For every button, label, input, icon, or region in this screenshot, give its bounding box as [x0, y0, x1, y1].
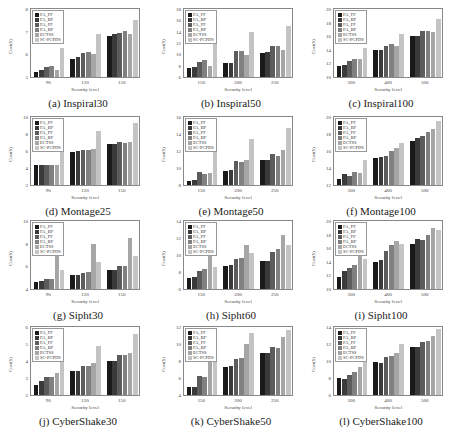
y-tick-label: 14 [176, 29, 181, 34]
bar [342, 174, 347, 185]
legend-swatch-icon [188, 28, 192, 32]
bar [260, 160, 265, 185]
x-axis-label: Security level [183, 195, 293, 200]
x-tick-label: 150 [198, 80, 206, 85]
legend-swatch-icon [35, 240, 39, 244]
bar [49, 165, 54, 185]
bar [96, 262, 101, 289]
x-tick-label: 90 [46, 398, 51, 403]
y-tick-label: 6 [26, 264, 29, 269]
legend-swatch-icon [35, 245, 39, 249]
legend-swatch-icon [35, 141, 39, 145]
bar [81, 366, 86, 395]
y-tick-label: 10 [176, 52, 181, 57]
bar [86, 52, 91, 77]
bar [39, 381, 44, 395]
bar [276, 46, 281, 77]
bar [379, 260, 384, 289]
chart-panel: 90120150FA_FFFA_BFFA_FFFA_BFECTSSSC-PCPD… [2, 4, 154, 112]
legend-swatch-icon [188, 245, 192, 249]
bar [394, 148, 399, 185]
bar [265, 160, 270, 185]
bar [223, 266, 228, 289]
y-axis-label: Cost($) [161, 147, 166, 162]
bar [260, 353, 265, 395]
x-axis-label: Security level [333, 87, 443, 92]
y-axis-label: Cost($) [8, 251, 13, 266]
bar [431, 129, 436, 185]
y-tick-label: 10 [326, 287, 331, 292]
chart-caption: (h) Sipht60 [155, 309, 307, 321]
legend-swatch-icon [35, 121, 39, 125]
bar [229, 170, 234, 185]
bar [234, 359, 239, 395]
legend: FA_FFFA_BFFA_FFFA_BFECTSSSC-PCPDS [335, 10, 367, 44]
bar [436, 329, 441, 395]
bar [112, 144, 117, 185]
legend-swatch-icon [338, 28, 342, 32]
legend-swatch-icon [35, 38, 39, 42]
legend-swatch-icon [338, 250, 342, 254]
legend-swatch-icon [35, 331, 39, 335]
x-tick-label: 500 [421, 188, 429, 193]
legend-item: SC-PCPDS [338, 145, 364, 150]
bar [394, 46, 399, 77]
bar [276, 249, 281, 289]
legend-swatch-icon [188, 18, 192, 22]
legend-swatch-icon [35, 356, 39, 360]
legend-item: SC-PCPDS [338, 37, 364, 42]
bar [229, 63, 234, 77]
chart-panel: 150200250FA_FFFA_BFFA_FFFA_BFECTSSSC-PCP… [155, 322, 307, 430]
chart-panel: 150200250FA_FFFA_BFFA_FFFA_BFECTSSSC-PCP… [155, 4, 307, 112]
bar [389, 245, 394, 289]
bar [270, 46, 275, 77]
bar [202, 377, 207, 395]
bar [197, 271, 202, 289]
legend-item: SC-PCPDS [188, 145, 214, 150]
bar [81, 53, 86, 77]
y-axis-label: Cost($) [8, 147, 13, 162]
legend-swatch-icon [188, 23, 192, 27]
bar [244, 55, 249, 77]
bar [426, 341, 431, 395]
bar [389, 356, 394, 395]
bar [117, 33, 122, 77]
y-tick-label: 8 [329, 376, 332, 381]
bar [436, 230, 441, 289]
y-tick-label: 16 [176, 18, 181, 23]
bar [373, 158, 378, 185]
bar [123, 355, 128, 395]
y-axis-label: Cost($) [161, 357, 166, 372]
bar [281, 337, 286, 395]
plot-area: FA_FFFA_BFFA_FFFA_BFECTSSSC-PCPDS [183, 326, 293, 396]
legend-item: SC-PCPDS [188, 37, 214, 42]
legend-swatch-icon [338, 230, 342, 234]
bar [234, 259, 239, 289]
legend-swatch-icon [338, 235, 342, 239]
legend-swatch-icon [188, 240, 192, 244]
legend-swatch-icon [35, 146, 39, 150]
legend-swatch-icon [338, 33, 342, 37]
bar [60, 270, 65, 289]
bar [117, 142, 122, 185]
legend: FA_FFFA_BFFA_FFFA_BFECTSSSC-PCPDS [185, 222, 217, 256]
bar [363, 48, 368, 77]
bar [347, 61, 352, 77]
y-tick-label: 4 [26, 359, 29, 364]
y-tick-label: 6 [179, 75, 182, 80]
plot-area: FA_FFFA_BFFA_FFFA_BFECTSSSC-PCPDS [30, 326, 140, 396]
bar [76, 151, 81, 185]
y-axis-label: Cost($) [311, 147, 316, 162]
legend-swatch-icon [338, 13, 342, 17]
bar [337, 66, 342, 77]
legend-swatch-icon [338, 331, 342, 335]
bar [202, 269, 207, 289]
chart-caption: (g) Sipht30 [2, 309, 154, 321]
bar [96, 34, 101, 77]
x-tick-label: 300 [348, 188, 356, 193]
y-tick-label: 6 [179, 287, 182, 292]
bar [384, 357, 389, 395]
legend-swatch-icon [338, 356, 342, 360]
legend-swatch-icon [188, 136, 192, 140]
bar [337, 277, 342, 289]
